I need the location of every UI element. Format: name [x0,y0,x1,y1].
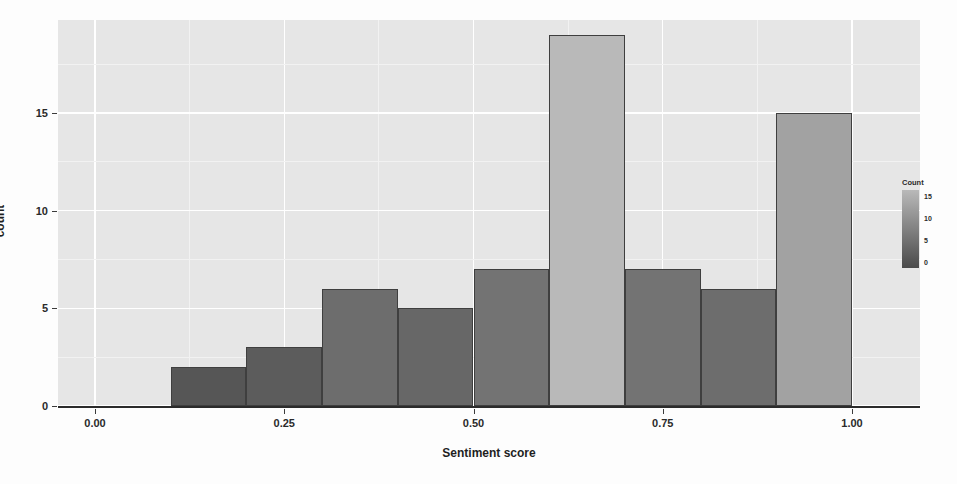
legend-body: 151050 [902,190,954,268]
legend: Count 151050 [902,178,954,268]
histogram-bar [701,289,777,406]
x-tick-label: 0.00 [84,417,105,429]
y-tick-mark [52,406,57,407]
x-tick-label: 0.50 [463,417,484,429]
x-axis-line [58,406,920,408]
y-tick-mark [52,308,57,309]
y-axis-title: count [0,205,7,238]
gridline-y-minor [58,64,920,65]
y-tick-mark [52,113,57,114]
x-axis-title: Sentiment score [58,446,920,460]
sentiment-score-histogram: 0.000.250.500.751.00 051015 Sentiment sc… [0,0,957,484]
legend-title: Count [902,178,954,187]
histogram-bar [776,113,852,406]
plot-panel [58,20,920,408]
legend-tick-label: 5 [924,237,928,244]
legend-tick-label: 0 [924,259,928,266]
x-tick-label: 1.00 [841,417,862,429]
x-tick-label: 0.25 [274,417,295,429]
x-tick-mark [95,409,96,414]
y-tick-label: 0 [18,400,48,412]
gridline-x-minor [189,20,190,408]
legend-colorbar [902,190,919,268]
gridline-x-major [94,20,95,408]
histogram-bar [549,35,625,406]
y-tick-mark [52,211,57,212]
histogram-bar [474,269,550,406]
y-tick-label: 5 [18,302,48,314]
legend-tick-label: 10 [924,215,932,222]
histogram-bar [322,289,398,406]
histogram-bar [625,269,701,406]
x-tick-mark [284,409,285,414]
x-tick-label: 0.75 [652,417,673,429]
legend-tick-label: 15 [924,193,932,200]
histogram-bar [398,308,474,406]
histogram-bar [246,347,322,406]
x-tick-mark [852,409,853,414]
x-tick-mark [663,409,664,414]
x-tick-mark [474,409,475,414]
y-tick-label: 15 [18,107,48,119]
y-tick-label: 10 [18,205,48,217]
histogram-bar [171,367,247,406]
